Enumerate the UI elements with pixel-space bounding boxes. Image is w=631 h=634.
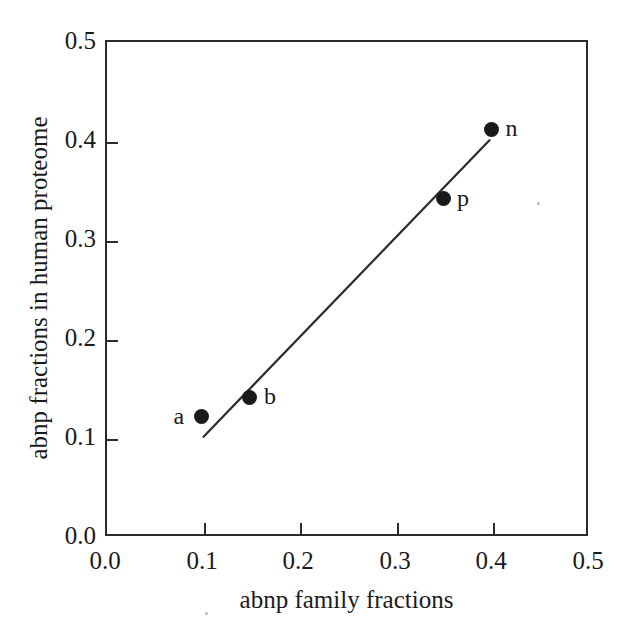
- data-point-label-p: p: [457, 186, 469, 210]
- x-axis-title: abnp family fractions: [105, 586, 588, 614]
- x-tick-0.2: [300, 523, 302, 534]
- scatter-plot-figure: 0.5 0.4 0.3 0.2 0.1 0.0 0.0 0.1 0.2 0.3 …: [0, 0, 631, 634]
- data-point-label-b: b: [264, 384, 276, 408]
- x-tick-label-0.1: 0.1: [172, 548, 232, 573]
- x-tick-0.4: [493, 523, 495, 534]
- x-tick-label-0.2: 0.2: [268, 548, 328, 573]
- y-tick-0.3: [107, 241, 118, 243]
- x-tick-label-0.4: 0.4: [461, 548, 521, 573]
- x-tick-label-0.5: 0.5: [558, 548, 618, 573]
- y-tick-0.1: [107, 439, 118, 441]
- data-point-n: [484, 122, 499, 137]
- data-point-label-n: n: [505, 116, 517, 140]
- data-point-p: [436, 191, 451, 206]
- x-tick-0.3: [397, 523, 399, 534]
- y-tick-0.4: [107, 142, 118, 144]
- y-axis-title: abnp fractions in human proteome: [22, 40, 56, 536]
- x-tick-0.1: [204, 523, 206, 534]
- data-point-b: [242, 390, 257, 405]
- data-point-label-a: a: [174, 404, 185, 428]
- x-tick-label-0.0: 0.0: [75, 548, 135, 573]
- x-tick-label-0.3: 0.3: [365, 548, 425, 573]
- y-tick-0.2: [107, 340, 118, 342]
